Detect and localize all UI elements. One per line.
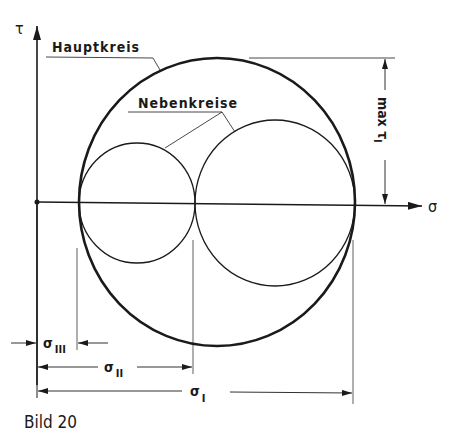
nebenkreise-leader-line-large [222, 112, 235, 132]
sigma-I-arrow-right [230, 392, 352, 393]
tau-axis-label: τ [15, 19, 24, 38]
figure-caption: Bild 20 [24, 412, 77, 432]
hauptkreis-leader-line [46, 57, 160, 70]
sigma-II-label: σII [104, 359, 123, 380]
nebenkreise-label: Nebenkreise [138, 95, 238, 111]
sigma-III-label: σIII [43, 335, 66, 356]
mohr-circle-diagram: τ σ Hauptkreis Nebenkreise max τI σIII σ… [0, 0, 452, 438]
hauptkreis-label: Hauptkreis [52, 39, 140, 55]
max-tau-label: max τI [372, 97, 391, 143]
sigma-axis [37, 202, 422, 206]
svg-text:max τI: max τI [372, 97, 391, 143]
sigma-axis-label: σ [428, 197, 437, 216]
nebenkreis-large-circle [195, 120, 355, 286]
sigma-I-label: σI [190, 383, 206, 405]
